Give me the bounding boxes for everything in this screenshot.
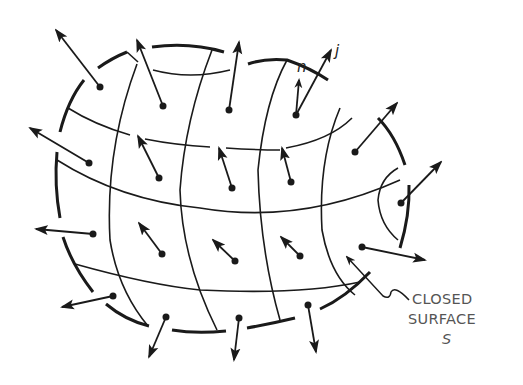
vector-11 bbox=[36, 229, 97, 238]
vector-n bbox=[293, 80, 300, 119]
closed-surface-diagram: n j CLOSED SURFACE S bbox=[0, 0, 523, 385]
vector-17 bbox=[149, 314, 170, 358]
vector-18 bbox=[234, 315, 243, 361]
vector-8 bbox=[282, 148, 295, 186]
vector-14 bbox=[281, 237, 304, 260]
vector-6 bbox=[138, 136, 163, 182]
vector-19 bbox=[305, 302, 317, 353]
vector-10 bbox=[398, 162, 442, 207]
caption-line-3: S bbox=[442, 331, 452, 347]
label-n: n bbox=[297, 58, 307, 76]
vector-9 bbox=[352, 103, 398, 156]
vector-15 bbox=[359, 244, 426, 261]
label-j: j bbox=[333, 42, 340, 60]
vector-2 bbox=[137, 40, 167, 110]
caption-line-1: CLOSED bbox=[412, 291, 472, 307]
caption-line-2: SURFACE bbox=[408, 311, 476, 327]
vector-12 bbox=[139, 223, 166, 258]
vector-5 bbox=[30, 128, 93, 167]
vector-3 bbox=[226, 42, 240, 114]
vector-1 bbox=[56, 30, 104, 91]
vector-7 bbox=[219, 148, 236, 192]
caption-leader bbox=[347, 257, 409, 300]
vector-13 bbox=[213, 240, 239, 265]
